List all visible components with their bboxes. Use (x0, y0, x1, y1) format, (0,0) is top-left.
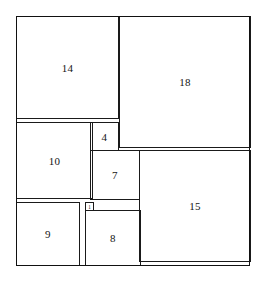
square-8: 8 (85, 210, 141, 266)
square-label: 4 (91, 131, 118, 142)
square-10: 10 (16, 122, 93, 199)
square-label: 8 (86, 233, 140, 244)
square-label: 9 (17, 229, 79, 240)
square-label: 10 (17, 155, 92, 166)
square-label: 18 (120, 77, 250, 88)
square-15: 15 (139, 150, 251, 262)
square-14: 14 (16, 16, 119, 119)
square-label: 1 (87, 204, 93, 209)
square-label: 15 (140, 201, 250, 212)
squared-rectangle-figure: 1418104715198 (0, 0, 266, 282)
square-4: 4 (90, 122, 119, 151)
square-label: 14 (17, 62, 118, 73)
square-18: 18 (119, 16, 251, 148)
square-label: 7 (91, 170, 139, 181)
square-9: 9 (16, 202, 80, 266)
square-7: 7 (90, 150, 140, 200)
